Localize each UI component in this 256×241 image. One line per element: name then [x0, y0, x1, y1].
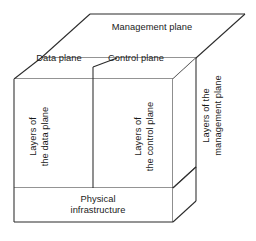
label-data-plane: Data plane: [26, 53, 92, 64]
label-layers-of-the-management-plane: Layers of the management plane: [201, 60, 224, 172]
label-control-plane: Control plane: [100, 53, 172, 64]
label-management-plane: Management plane: [96, 22, 208, 33]
label-layers-of-the-data-plane: Layers of the data plane: [28, 81, 51, 193]
management-plane-top-face: [41, 14, 245, 58]
management-plane-side-face: [173, 58, 196, 188]
label-layers-of-the-control-plane: Layers of the control plane: [133, 81, 156, 193]
data-plane-front-face: [14, 79, 93, 188]
diagram-canvas: Management plane Data plane Control plan…: [0, 0, 256, 241]
label-physical-infrastructure: Physical infrastructure: [24, 194, 172, 216]
